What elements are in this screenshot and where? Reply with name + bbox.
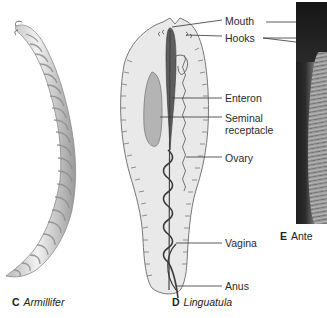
- caption-e-name: Ante: [291, 230, 313, 242]
- label-ovary: Ovary: [225, 152, 253, 164]
- label-receptacle: receptacle: [225, 124, 273, 136]
- caption-d-name: Linguatula: [184, 296, 232, 308]
- label-vagina: Vagina: [225, 237, 257, 249]
- photo-specimen-edge: [308, 52, 327, 224]
- caption-d: DLinguatula: [172, 296, 232, 308]
- label-anus: Anus: [225, 280, 249, 292]
- label-enteron: Enteron: [225, 92, 262, 104]
- caption-e-letter: E: [280, 230, 287, 242]
- caption-e: EAnte: [280, 230, 313, 242]
- label-hooks: Hooks: [225, 32, 255, 44]
- anterior-photo: [296, 2, 327, 224]
- label-seminal: Seminal: [225, 112, 263, 124]
- label-mouth: Mouth: [225, 15, 254, 27]
- caption-d-letter: D: [172, 296, 180, 308]
- linguatula-illustration: [0, 0, 327, 318]
